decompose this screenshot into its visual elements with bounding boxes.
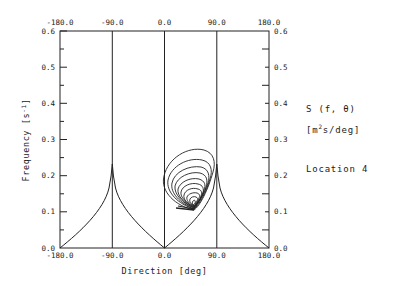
svg-text:0.1: 0.1 bbox=[41, 207, 55, 216]
top-tick-labels: -180.0 -90.0 0.0 90.0 180.0 bbox=[46, 18, 280, 27]
bottom-tick-labels: -180.0 -90.0 0.0 90.0 180.0 bbox=[46, 251, 280, 260]
svg-text:0.4: 0.4 bbox=[274, 99, 288, 108]
right-tick-labels: 0.6 0.5 0.4 0.3 0.2 0.1 0.0 bbox=[274, 27, 288, 253]
svg-text:0.6: 0.6 bbox=[41, 27, 55, 36]
reference-lines bbox=[112, 31, 217, 248]
left-tick-labels: 0.6 0.5 0.4 0.3 0.2 0.1 0.0 bbox=[41, 27, 55, 253]
spectrum-quantity-label: S (f, θ) bbox=[306, 104, 356, 114]
svg-text:0.0: 0.0 bbox=[41, 244, 55, 253]
svg-text:-90.0: -90.0 bbox=[101, 251, 124, 260]
svg-text:0.2: 0.2 bbox=[274, 171, 288, 180]
svg-text:0.1: 0.1 bbox=[274, 207, 288, 216]
spectrum-contours bbox=[163, 149, 214, 210]
svg-text:0.6: 0.6 bbox=[274, 27, 288, 36]
svg-text:0.2: 0.2 bbox=[41, 171, 55, 180]
svg-text:90.0: 90.0 bbox=[208, 18, 227, 27]
svg-text:0.0: 0.0 bbox=[158, 251, 172, 260]
svg-text:0.3: 0.3 bbox=[41, 135, 55, 144]
svg-text:-90.0: -90.0 bbox=[101, 18, 124, 27]
left-axis-ticks bbox=[60, 31, 67, 230]
svg-text:0.0: 0.0 bbox=[274, 244, 288, 253]
svg-text:0.4: 0.4 bbox=[41, 99, 55, 108]
spectrum-units-label: [m2s/deg] bbox=[306, 123, 360, 135]
svg-text:0.0: 0.0 bbox=[158, 18, 172, 27]
svg-text:90.0: 90.0 bbox=[208, 251, 227, 260]
location-label: Location 4 bbox=[306, 164, 368, 174]
y-axis-title: Frequency [s-1] bbox=[20, 99, 31, 182]
x-axis-title: Direction [deg] bbox=[122, 266, 208, 276]
right-axis-ticks bbox=[262, 49, 269, 230]
svg-text:0.3: 0.3 bbox=[274, 135, 288, 144]
svg-text:0.5: 0.5 bbox=[41, 63, 55, 72]
svg-text:0.5: 0.5 bbox=[274, 63, 288, 72]
directional-spectrum-chart: -180.0 -90.0 0.0 90.0 180.0 -180.0 -90.0… bbox=[0, 0, 398, 286]
